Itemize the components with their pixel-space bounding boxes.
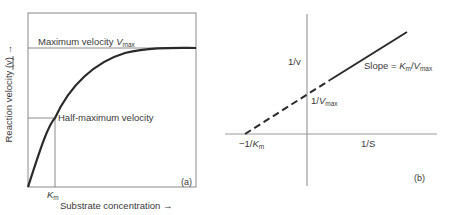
- panel-a-tag: (a): [181, 178, 192, 187]
- panel-b-tag: (b): [414, 174, 425, 183]
- slope-label: Slope = Km/Vmax: [364, 61, 432, 73]
- lineweaver-burk-line: [330, 32, 407, 80]
- half-max-label: Half-maximum velocity: [58, 113, 154, 123]
- inv-vmax-label: 1/Vmax: [311, 96, 338, 108]
- vmax-label: Maximum velocity Vmax: [38, 37, 135, 49]
- neg-inv-km-label: −1/Km: [239, 139, 264, 151]
- enzyme-kinetics-diagram: [0, 0, 449, 215]
- inv-v-label: 1/v: [288, 57, 301, 67]
- inv-s-label: 1/S: [361, 139, 375, 149]
- km-label: Km: [47, 190, 59, 202]
- y-axis-label: Reaction velocity (v) →: [3, 61, 14, 143]
- x-axis-label: Substrate concentration →: [60, 201, 172, 211]
